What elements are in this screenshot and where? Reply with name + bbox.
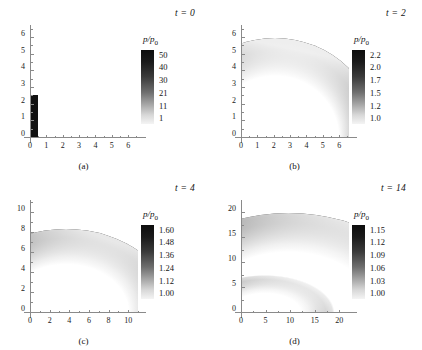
y-tick — [242, 70, 245, 71]
x-tick-label: 3 — [77, 141, 81, 150]
x-tick-label: 0 — [28, 316, 32, 325]
colorbar-ticks-d: 1.15 1.12 1.09 1.06 1.03 1.00 — [370, 225, 385, 299]
colorbar-gradient-a — [141, 50, 154, 124]
colorbar-tick: 1.06 — [370, 264, 385, 273]
y-tick-minor — [31, 202, 33, 203]
y-tick-minor — [242, 129, 244, 130]
x-tick-minor — [138, 311, 139, 313]
y-tick-label: 2 — [21, 95, 25, 104]
plot-area-a: 0123456 0123456 — [30, 28, 138, 138]
y-tick — [31, 252, 34, 253]
colorbar-tick: 1.03 — [370, 277, 385, 286]
colorbar-a: p/p0 50 40 30 21 11 1 — [141, 34, 203, 124]
colorbar-tick: 1.60 — [159, 226, 174, 235]
y-tick — [242, 237, 245, 238]
panel-tag-a: (a) — [0, 161, 211, 171]
y-tick-label: 2 — [21, 284, 25, 293]
y-tick-minor — [31, 79, 33, 80]
y-tick-label: 3 — [21, 79, 25, 88]
figure-root: t = 0 0123456 0123456 p/p0 50 40 30 21 — [0, 0, 422, 350]
colorbar-title-c: p/p0 — [143, 209, 203, 222]
x-tick-label: 1 — [44, 141, 48, 150]
y-tick — [31, 37, 34, 38]
y-tick-label: 4 — [21, 264, 25, 273]
plot-area-b: 0123456 0123456 — [241, 28, 349, 138]
y-tick-minor — [242, 250, 244, 251]
y-tick-minor — [31, 129, 33, 130]
y-ticks-a: 0123456 — [30, 28, 138, 138]
y-tick — [242, 287, 245, 288]
y-tick — [242, 54, 245, 55]
y-tick-label: 0 — [21, 129, 25, 138]
y-tick-label: 2 — [232, 95, 236, 104]
y-tick — [242, 262, 245, 263]
panel-d: t = 14 05101520 05101520 p/p0 1.15 1.12 — [211, 175, 422, 350]
y-ticks-d: 05101520 — [241, 203, 349, 313]
x-tick-label: 4 — [93, 141, 97, 150]
colorbar-tick: 1.0 — [370, 114, 381, 123]
x-tick-label: 0 — [239, 316, 243, 325]
x-tick-label: 6 — [87, 316, 91, 325]
x-tick-label: 0 — [28, 141, 32, 150]
y-tick-label: 0 — [21, 304, 25, 313]
colorbar-tick: 1.2 — [370, 102, 381, 111]
y-tick-minor — [242, 79, 244, 80]
panel-b: t = 2 0123456 0123456 p/p0 2.2 2.0 1.7 — [211, 0, 422, 175]
y-tick-label: 5 — [232, 279, 236, 288]
y-tick — [31, 70, 34, 71]
colorbar-title-b: p/p0 — [354, 34, 414, 47]
y-tick-label: 10 — [228, 254, 236, 263]
y-tick — [31, 212, 34, 213]
y-tick-minor — [242, 300, 244, 301]
y-tick-label: 3 — [232, 79, 236, 88]
time-label-a: t = 0 — [175, 8, 195, 18]
time-label-c: t = 4 — [175, 183, 195, 193]
colorbar-title-d: p/p0 — [354, 209, 414, 222]
y-tick-minor — [31, 222, 33, 223]
y-tick-label: 4 — [232, 62, 236, 71]
colorbar-tick: 1.00 — [370, 289, 385, 298]
colorbar-gradient-b — [352, 50, 365, 124]
time-label-b: t = 2 — [386, 8, 406, 18]
y-tick — [31, 292, 34, 293]
x-tick-label: 4 — [67, 316, 71, 325]
colorbar-b: p/p0 2.2 2.0 1.7 1.5 1.2 1.0 — [352, 34, 414, 124]
x-tick-label: 2 — [61, 141, 65, 150]
y-tick-minor — [242, 62, 244, 63]
colorbar-tick: 1 — [159, 114, 168, 123]
colorbar-ticks-c: 1.60 1.48 1.36 1.24 1.12 1.00 — [159, 225, 174, 299]
y-tick-minor — [31, 45, 33, 46]
y-tick-minor — [31, 242, 33, 243]
y-tick — [242, 312, 245, 313]
y-tick-label: 1 — [21, 112, 25, 121]
y-tick-label: 5 — [21, 45, 25, 54]
x-tick-label: 2 — [272, 141, 276, 150]
x-tick-label: 5 — [110, 141, 114, 150]
y-tick-minor — [31, 29, 33, 30]
y-tick-label: 5 — [232, 45, 236, 54]
y-tick — [31, 54, 34, 55]
y-ticks-b: 0123456 — [241, 28, 349, 138]
y-tick-minor — [242, 95, 244, 96]
y-tick — [31, 272, 34, 273]
y-tick-label: 4 — [21, 62, 25, 71]
plot-area-c: 0246810 0246810 — [30, 203, 138, 313]
y-tick — [242, 37, 245, 38]
y-tick — [242, 212, 245, 213]
x-tick-label: 4 — [304, 141, 308, 150]
y-tick-label: 6 — [21, 244, 25, 253]
x-tick-label: 6 — [337, 141, 341, 150]
colorbar-tick: 1.12 — [370, 238, 385, 247]
x-tick-label: 8 — [107, 316, 111, 325]
colorbar-tick: 1.36 — [159, 251, 174, 260]
y-tick — [31, 137, 34, 138]
x-tick-label: 5 — [321, 141, 325, 150]
panel-tag-b: (b) — [211, 161, 422, 171]
colorbar-gradient-c — [141, 225, 154, 299]
x-tick-label: 2 — [48, 316, 52, 325]
y-tick — [242, 87, 245, 88]
time-label-d: t = 14 — [381, 183, 406, 193]
y-tick-label: 20 — [228, 204, 236, 213]
x-tick-label: 10 — [286, 316, 294, 325]
y-tick-minor — [31, 262, 33, 263]
